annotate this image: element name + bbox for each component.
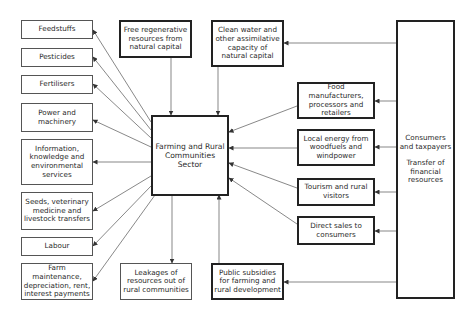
label: Information, knowledge and environmental…: [23, 145, 91, 179]
box-fertilisers: Fertilisers: [21, 75, 93, 94]
consumers-title: Consumers and taxpayers: [399, 134, 452, 151]
box-feedstuffs: Feedstuffs: [21, 20, 93, 39]
arrow-to-pesticides: [93, 57, 151, 130]
label: Labour: [45, 242, 70, 251]
label: Public subsidies for farming and rural d…: [214, 269, 281, 295]
label: Fertilisers: [40, 80, 75, 89]
arrow-to-labour: [93, 186, 151, 246]
box-food-manufacturers: Food manufacturers, processors and retai…: [297, 82, 375, 119]
label: Tourism and rural visitors: [300, 183, 372, 200]
arrow-to-seeds: [93, 176, 151, 211]
arrow-direct: [229, 178, 297, 224]
arrow-to-fertilisers: [93, 84, 151, 138]
label: Clean water and other assimilative capac…: [214, 26, 281, 60]
label: Farm maintenance, depreciation, rent, in…: [23, 264, 91, 298]
box-consumers: Consumers and taxpayers Transfer of fina…: [396, 20, 455, 299]
box-information: Information, knowledge and environmental…: [21, 139, 93, 185]
box-leakages: Leakages of resources out of rural commu…: [120, 263, 192, 300]
label: Seeds, veterinary medicine and livestock…: [23, 198, 91, 224]
arrow-to-power: [93, 120, 151, 147]
consumers-subtitle: Transfer of financial resources: [399, 159, 452, 185]
box-tourism: Tourism and rural visitors: [297, 178, 375, 206]
box-free-resources: Free regenerative resources from natural…: [119, 20, 192, 58]
label: Leakages of resources out of rural commu…: [122, 269, 190, 295]
box-pesticides: Pesticides: [21, 48, 93, 67]
box-maintenance: Farm maintenance, depreciation, rent, in…: [21, 263, 93, 300]
label: Farming and Rural Communities Sector: [154, 142, 226, 169]
box-seeds: Seeds, veterinary medicine and livestock…: [21, 192, 93, 230]
arrow-tourism: [229, 163, 297, 188]
box-local-energy: Local energy from woodfuels and windpowe…: [297, 129, 375, 166]
box-labour: Labour: [21, 237, 93, 256]
box-clean-water: Clean water and other assimilative capac…: [211, 20, 284, 67]
arrow-food: [229, 106, 297, 132]
box-farming-sector: Farming and Rural Communities Sector: [151, 115, 229, 196]
label: Direct sales to consumers: [300, 222, 372, 239]
label: Pesticides: [39, 53, 75, 62]
label: Food manufacturers, processors and retai…: [300, 83, 372, 117]
box-direct-sales: Direct sales to consumers: [297, 216, 375, 245]
box-power: Power and machinery: [21, 103, 93, 132]
box-subsidies: Public subsidies for farming and rural d…: [211, 263, 284, 300]
label: Power and machinery: [23, 109, 91, 126]
label: Feedstuffs: [39, 25, 76, 34]
label: Free regenerative resources from natural…: [122, 26, 189, 52]
label: Local energy from woodfuels and windpowe…: [300, 135, 372, 161]
